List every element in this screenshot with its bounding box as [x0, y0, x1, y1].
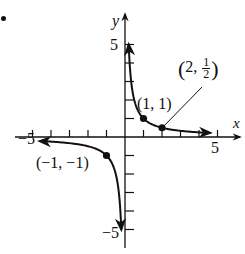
point-label-2-half: (2, 12): [178, 57, 219, 80]
x-axis-label: x: [233, 116, 240, 131]
y-tick-label-neg5: −5: [102, 225, 119, 241]
point-label-1-1: (1, 1): [137, 96, 172, 112]
data-point: [103, 152, 110, 159]
data-point: [140, 115, 147, 122]
y-tick-label-5: 5: [110, 37, 118, 53]
data-point: [158, 124, 165, 131]
y-axis-label: y: [112, 13, 119, 29]
x-tick-label-neg5: −5: [18, 131, 35, 147]
axes: [15, 14, 240, 248]
graph-canvas: [0, 0, 245, 254]
point-label-neg1-neg1: (−1, −1): [36, 155, 89, 171]
x-tick-label-5: 5: [211, 140, 219, 156]
fraction-one-half: 12: [202, 57, 210, 80]
